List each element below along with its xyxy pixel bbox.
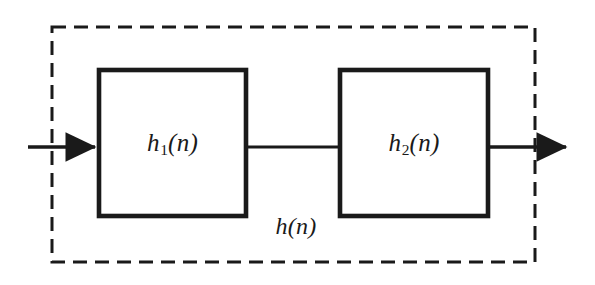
block-diagram-figure: h1(n) h2(n) h(n) [0,0,595,285]
block-h1-rect [99,70,246,216]
diagram-svg-canvas [0,0,595,285]
block-h2-rect [340,70,488,216]
